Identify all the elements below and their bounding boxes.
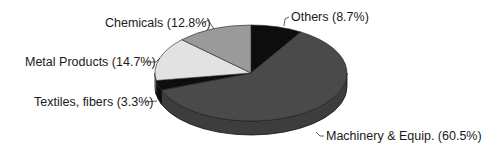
label-others: Others (8.7%)	[291, 10, 369, 24]
label-machinery: Machinery & Equip. (60.5%)	[326, 129, 482, 143]
label-chemicals: Chemicals (12.8%)	[105, 16, 211, 30]
pie-chart: Chemicals (12.8%) Metal Products (14.7%)…	[0, 0, 498, 149]
label-metal: Metal Products (14.7%)	[25, 55, 156, 69]
leader-machinery	[316, 132, 324, 136]
label-textiles: Textiles, fibers (3.3%)	[34, 95, 153, 109]
pie-top-face	[155, 25, 347, 121]
leader-others	[284, 17, 289, 26]
